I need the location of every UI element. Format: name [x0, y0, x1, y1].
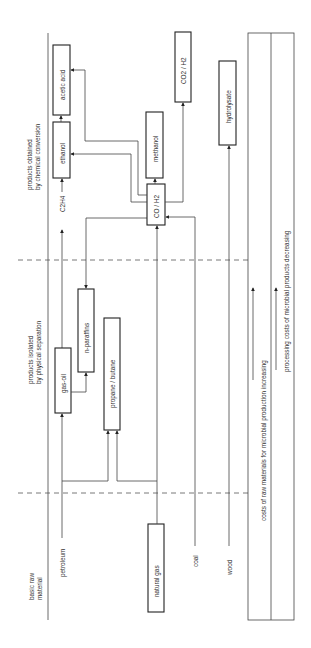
flow-coh2-co2h2: [165, 103, 183, 202]
svg-text:acetic acid: acetic acid: [59, 69, 66, 100]
svg-text:products isolated: products isolated: [27, 335, 35, 384]
box-n-paraffins: n-paraffins: [78, 289, 94, 372]
label-wood: wood: [226, 559, 233, 576]
label-processing-costs: processing costs of microbial products d…: [283, 230, 291, 372]
label-coal: coal: [192, 555, 199, 567]
svg-text:ethanol: ethanol: [59, 143, 66, 164]
flow-naturalgas-propane: [117, 431, 157, 481]
svg-text:hydrolysate: hydrolysate: [225, 90, 233, 123]
label-petroleum: petroleum: [59, 549, 67, 577]
box-gas-oil: gas-oil: [55, 348, 71, 413]
svg-text:CO / H2: CO / H2: [153, 194, 160, 218]
flow-petroleum-propane: [62, 431, 108, 481]
svg-text:natural gas: natural gas: [153, 565, 161, 597]
header-physical-separation: products isolated by physical separation: [27, 320, 43, 384]
flow-coal-coh2: [166, 217, 195, 546]
svg-text:propane / butane: propane / butane: [109, 359, 117, 408]
header-raw-material: basic raw material: [28, 573, 43, 600]
box-ethanol: ethanol: [53, 122, 70, 178]
svg-text:methanol: methanol: [152, 136, 159, 162]
svg-text:n-paraffins: n-paraffins: [83, 323, 91, 353]
svg-text:by chemical conversion: by chemical conversion: [34, 123, 42, 190]
box-hydrolysate: hydrolysate: [219, 61, 236, 145]
label-c2h4: C2H4: [59, 195, 66, 212]
cost-trend-panel: costs of raw materials for microbial pro…: [248, 33, 294, 620]
box-co-h2: CO / H2: [147, 184, 165, 225]
flow-coh2-nparaffins: [86, 218, 147, 288]
svg-text:by physical separation: by physical separation: [35, 320, 43, 384]
box-acetic-acid: acetic acid: [53, 45, 70, 115]
flow-coh2-aceticacid: [71, 70, 147, 195]
svg-text:CO2 / H2: CO2 / H2: [180, 57, 187, 84]
svg-text:gas-oil: gas-oil: [60, 374, 68, 393]
flow-gasoil-nparaffins: [71, 373, 86, 392]
svg-text:basic raw: basic raw: [28, 573, 35, 600]
label-raw-costs: costs of raw materials for microbial pro…: [260, 360, 268, 521]
svg-text:material: material: [36, 577, 43, 600]
box-propane-butane: propane / butane: [104, 318, 120, 430]
flow-coh2-ethanol: [71, 154, 147, 202]
conversion-diagram: basic raw material products isolated by …: [0, 0, 311, 648]
svg-text:products obtained: products obtained: [26, 139, 34, 190]
box-methanol: methanol: [146, 112, 163, 178]
header-chemical-conversion: products obtained by chemical conversion: [26, 123, 42, 190]
box-natural-gas: natural gas: [148, 524, 164, 612]
box-co2-h2: CO2 / H2: [175, 32, 191, 102]
